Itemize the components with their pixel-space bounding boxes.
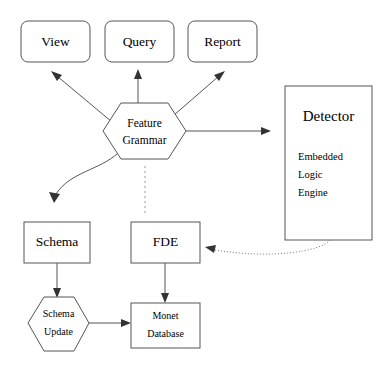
detector-title: Detector [303, 108, 355, 124]
edge-feature-grammar-to-query [134, 69, 142, 103]
feature-grammar-label-line2: Grammar [122, 134, 166, 146]
node-report[interactable]: Report [188, 21, 257, 62]
schema-update-label-line1: Schema [43, 308, 75, 319]
edge-fde-to-monet-database [161, 263, 169, 303]
architecture-diagram: View Query Report Feature Grammar Detect… [0, 0, 388, 373]
view-label: View [41, 34, 70, 49]
report-label: Report [204, 34, 241, 49]
detector-line-embedded: Embedded [298, 151, 344, 162]
node-monet-database[interactable]: Monet Database [131, 303, 200, 348]
diagram-canvas: View Query Report Feature Grammar Detect… [0, 0, 388, 373]
edge-feature-grammar-to-schema [49, 153, 118, 203]
query-label: Query [123, 34, 157, 49]
schema-update-hexagon[interactable] [28, 297, 89, 351]
node-schema[interactable]: Schema [24, 222, 90, 263]
node-fde[interactable]: FDE [131, 222, 200, 263]
edge-schema-update-to-monet-database [89, 319, 131, 327]
feature-grammar-label-line1: Feature [127, 117, 161, 129]
edge-schema-to-schema-update [53, 263, 61, 298]
feature-grammar-hexagon[interactable] [103, 103, 186, 159]
detector-line-engine: Engine [298, 187, 328, 198]
schema-label: Schema [36, 234, 79, 249]
monet-database-label-line1: Monet [152, 310, 178, 321]
node-detector[interactable]: Detector Embedded Logic Engine [285, 86, 372, 240]
edge-detector-to-fde [205, 240, 330, 254]
node-schema-update[interactable]: Schema Update [28, 297, 89, 351]
edge-feature-grammar-to-detector [186, 127, 271, 135]
edge-feature-grammar-to-view [51, 71, 112, 122]
detector-line-logic: Logic [298, 169, 323, 180]
node-view[interactable]: View [21, 21, 90, 62]
schema-update-label-line2: Update [44, 326, 73, 337]
fde-label: FDE [153, 234, 179, 249]
monet-database-label-line2: Database [147, 328, 184, 339]
node-feature-grammar[interactable]: Feature Grammar [103, 103, 186, 159]
node-query[interactable]: Query [105, 21, 174, 62]
